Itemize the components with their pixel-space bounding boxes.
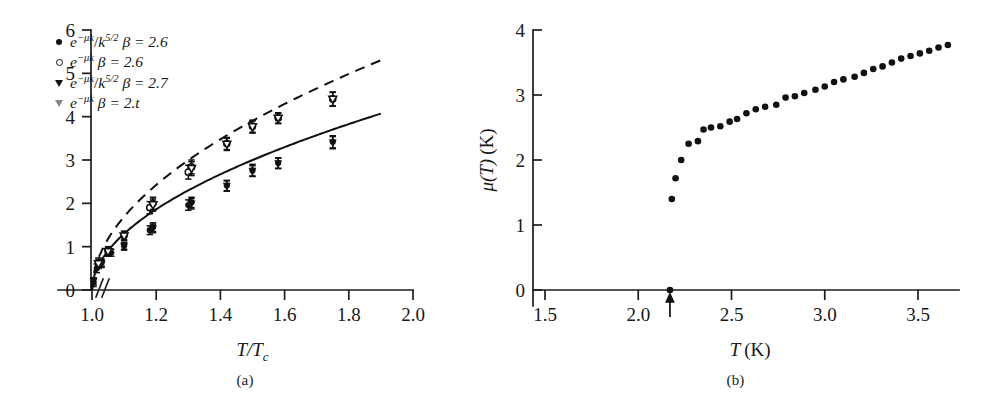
panel-a-x-tick-label: 1.6 xyxy=(273,304,297,325)
panel-b-x-axis-label: T(K) xyxy=(730,339,771,361)
legend-marker-filled-circle-icon xyxy=(52,36,66,47)
panel-b-data-point xyxy=(672,175,679,182)
legend-item-label: e−μk β = 2.t xyxy=(70,94,140,111)
legend-marker-open-circle-icon xyxy=(52,56,66,67)
legend-item-label: e−μk β = 2.6 xyxy=(70,53,143,70)
lambda-arrow-head-icon xyxy=(666,294,673,302)
panel-a-legend: e−μk/k5/2 β = 2.6e−μk β = 2.6e−μk/k5/2 β… xyxy=(52,31,262,113)
panel-a-y-tick-label: 3 xyxy=(66,150,76,171)
panel-b-data-point xyxy=(889,59,896,66)
marker-open-triangle xyxy=(223,141,231,148)
panel-b-data-point xyxy=(669,196,676,203)
legend-item: e−μk β = 2.6 xyxy=(52,52,262,73)
panel-b-data-point xyxy=(879,63,886,70)
panel-a-y-tick-label: 1 xyxy=(66,237,76,258)
panel-b-data-point xyxy=(907,53,914,60)
panel-b-data-point xyxy=(926,48,933,55)
panel-b-data-point xyxy=(898,55,905,62)
panel-a-data-point xyxy=(274,113,282,123)
panel-a-x-tick-label: 1.2 xyxy=(144,304,168,325)
panel-a-solid-fit-curve xyxy=(92,114,381,290)
panel-b-y-tick-label: 1 xyxy=(516,215,526,236)
panel-b-plot: 012341.52.02.53.03.5T(K)μ(T)(K) xyxy=(490,0,981,370)
legend-marker-open-triangle-down-icon xyxy=(52,97,66,108)
panel-b-data-point xyxy=(726,118,733,125)
panel-a-data-points xyxy=(90,92,337,287)
panel-a-data-point xyxy=(223,138,231,150)
panel-b-caption: (b) xyxy=(490,372,981,389)
panel-b-data-point xyxy=(851,74,858,81)
panel-a-caption: (a) xyxy=(0,372,490,389)
marker-glyph xyxy=(56,39,62,45)
panel-a: 01234561.01.21.41.61.82.0T/Tc e−μk/k5/2 … xyxy=(0,0,490,412)
panel-b-data-point xyxy=(782,94,789,101)
panel-b-data-point xyxy=(773,101,780,108)
panel-b-data-point xyxy=(792,93,799,100)
legend-item-label: e−μk/k5/2 β = 2.7 xyxy=(70,74,168,91)
panel-b-data-point xyxy=(861,70,868,77)
panel-b-lambda-arrow xyxy=(666,294,673,317)
panel-b-axes xyxy=(533,30,959,306)
panel-b-data-point xyxy=(935,44,942,51)
panel-b-data-point xyxy=(801,90,808,97)
marker-glyph xyxy=(55,80,63,87)
panel-b-data-point xyxy=(708,124,715,131)
panel-a-y-tick-label: 2 xyxy=(66,193,76,214)
panel-b-data-point xyxy=(945,42,952,49)
legend-item: e−μk/k5/2 β = 2.7 xyxy=(52,72,262,93)
marker-open-triangle xyxy=(329,96,337,103)
panel-b: 012341.52.02.53.03.5T(K)μ(T)(K) (b) xyxy=(490,0,981,412)
panel-b-data-point xyxy=(752,106,759,113)
panel-a-x-tick-label: 1.0 xyxy=(80,304,104,325)
legend-item: e−μk β = 2.t xyxy=(52,93,262,114)
panel-b-data-points xyxy=(667,42,951,294)
panel-a-x-axis-label: T/Tc xyxy=(236,339,268,364)
legend-marker-filled-triangle-down-icon xyxy=(52,77,66,88)
panel-b-y-axis-label: μ(T)(K) xyxy=(476,128,498,192)
panel-b-data-point xyxy=(821,83,828,90)
panel-a-x-tick-label: 1.8 xyxy=(337,304,361,325)
panel-a-x-tick-label: 1.4 xyxy=(209,304,233,325)
panel-b-x-tick-label: 2.5 xyxy=(720,304,744,325)
panel-b-x-tick-label: 1.5 xyxy=(533,304,557,325)
panel-b-data-point xyxy=(840,76,847,83)
panel-b-data-point xyxy=(678,157,685,164)
marker-glyph xyxy=(55,100,63,107)
panel-b-y-tick-label: 3 xyxy=(516,85,526,106)
panel-a-data-point xyxy=(329,92,337,106)
marker-glyph xyxy=(56,59,63,66)
panel-b-data-point xyxy=(831,79,838,86)
panel-b-y-tick-label: 0 xyxy=(516,280,526,301)
panel-b-y-tick-label: 2 xyxy=(516,150,526,171)
panel-b-data-point xyxy=(700,126,707,133)
panel-b-data-point xyxy=(743,110,750,117)
panel-b-x-tick-label: 2.0 xyxy=(626,304,650,325)
panel-b-data-point xyxy=(762,103,769,110)
panel-b-data-point xyxy=(717,123,724,130)
panel-b-y-tick-label: 4 xyxy=(516,20,526,41)
panel-b-x-tick-label: 3.5 xyxy=(906,304,930,325)
panel-b-data-point xyxy=(685,140,692,147)
panel-a-x-tick-label: 2.0 xyxy=(401,304,425,325)
marker-open-triangle xyxy=(249,124,257,131)
legend-item: e−μk/k5/2 β = 2.6 xyxy=(52,31,262,52)
panel-b-data-point xyxy=(870,66,877,73)
panel-b-x-tick-label: 3.0 xyxy=(813,304,837,325)
panel-b-data-point xyxy=(734,116,741,123)
panel-a-y-tick-label: 0 xyxy=(66,280,76,301)
legend-item-label: e−μk/k5/2 β = 2.6 xyxy=(70,33,168,50)
figure-container: 01234561.01.21.41.61.82.0T/Tc e−μk/k5/2 … xyxy=(0,0,981,412)
marker-open-triangle xyxy=(274,115,282,122)
panel-b-data-point xyxy=(917,50,924,57)
panel-b-data-point xyxy=(812,87,819,94)
panel-b-data-point xyxy=(695,138,702,145)
